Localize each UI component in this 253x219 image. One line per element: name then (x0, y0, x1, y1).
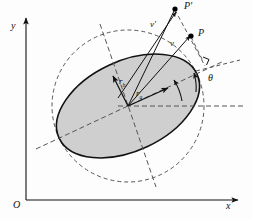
radius-b-sub: b (123, 82, 126, 88)
figure-canvas: P' P v' v rb ra θ y x O (0, 0, 253, 219)
right-angle-marker (203, 57, 209, 65)
label-radius-b: rb (119, 77, 125, 88)
label-y-axis: y (11, 21, 15, 31)
point-p-prime-dot (172, 6, 177, 11)
label-x-axis: x (226, 201, 230, 211)
label-radius-a: ra (136, 89, 142, 100)
label-point-p: P (198, 28, 204, 38)
label-velocity-prime: v' (150, 20, 156, 29)
label-velocity: v (170, 39, 174, 48)
label-point-p-prime: P' (184, 1, 192, 11)
p-projection-dashed (191, 37, 203, 61)
radius-a-sub: a (140, 94, 143, 100)
label-origin: O (13, 200, 20, 210)
diagram-svg (0, 0, 253, 219)
point-p-dot (188, 33, 193, 38)
label-theta: θ (208, 73, 213, 83)
